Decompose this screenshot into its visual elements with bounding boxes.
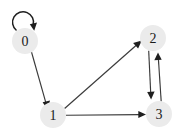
graph-node-2-label: 2	[150, 31, 157, 46]
graph-svg: 0 1 2 3	[0, 0, 183, 136]
graph-canvas: 0 1 2 3	[0, 0, 183, 136]
graph-node-3-label: 3	[156, 107, 163, 122]
edge-0-to-0-loop-path	[13, 12, 34, 31]
edge-1-to-3-arrowhead	[138, 111, 146, 118]
edge-2-to-3-line	[149, 51, 151, 93]
edge-1-to-2	[65, 40, 142, 108]
edge-1-to-3-line	[66, 115, 140, 116]
edge-3-to-2-line	[158, 59, 161, 102]
graph-node-1[interactable]: 1	[40, 102, 66, 128]
edge-0-to-0-self-loop	[13, 12, 37, 31]
graph-node-0-label: 0	[22, 34, 29, 49]
edge-1-to-2-line	[65, 46, 136, 109]
graph-node-3[interactable]: 3	[146, 101, 172, 127]
edge-3-to-2-arrowhead	[154, 53, 161, 61]
edge-0-to-1	[32, 52, 51, 110]
graph-node-1-label: 1	[50, 108, 57, 123]
edge-2-to-3	[147, 51, 154, 100]
edge-2-to-3-arrowhead	[147, 92, 154, 100]
edge-3-to-2	[154, 53, 161, 102]
graph-node-0[interactable]: 0	[12, 28, 38, 54]
node-layer: 0 1 2 3	[12, 25, 172, 128]
edge-0-to-1-line	[32, 52, 47, 104]
edge-1-to-3	[66, 111, 146, 118]
edge-layer	[13, 12, 162, 118]
graph-node-2[interactable]: 2	[140, 25, 166, 51]
